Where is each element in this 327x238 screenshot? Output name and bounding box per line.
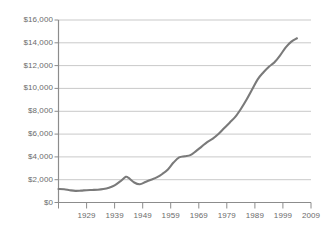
x-axis-label: 1929 — [77, 211, 95, 220]
x-axis-label: 1989 — [246, 211, 264, 220]
data-series-line — [59, 38, 297, 191]
x-axis-tick-labels: 192919391949195919691979198919992009 — [0, 211, 327, 231]
chart-container: $0$2,000$4,000$6,000$8,000$10,000$12,000… — [0, 0, 327, 238]
x-axis-label: 1949 — [134, 211, 152, 220]
chart-plot-area — [0, 0, 327, 238]
x-axis-label: 1969 — [190, 211, 208, 220]
x-axis-label: 2009 — [302, 211, 320, 220]
x-axis-ticks — [59, 203, 312, 209]
x-axis-label: 1999 — [274, 211, 292, 220]
x-axis-label: 1979 — [218, 211, 236, 220]
x-axis-label: 1939 — [106, 211, 124, 220]
x-axis-label: 1959 — [162, 211, 180, 220]
